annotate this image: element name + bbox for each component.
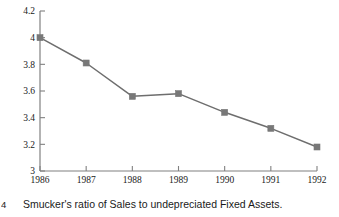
x-tick-label: 1990 <box>215 175 234 185</box>
figure-number-label: 4 <box>1 199 9 210</box>
x-tick-label: 1992 <box>308 175 327 185</box>
y-tick-label: 3.8 <box>23 60 35 70</box>
data-point-marker <box>83 60 89 66</box>
data-point-marker <box>268 125 274 131</box>
data-point-marker <box>314 144 320 150</box>
y-axis-tick-labels: 33.23.43.63.844.2 <box>23 6 35 176</box>
y-tick-label: 3.6 <box>23 86 35 96</box>
x-axis-ticks <box>40 166 317 171</box>
figure-caption-text: Smucker's ratio of Sales to undepreciate… <box>23 198 282 210</box>
figure-caption-row: 4 Smucker's ratio of Sales to undeprecia… <box>0 193 339 215</box>
data-point-marker <box>129 93 135 99</box>
data-point-marker <box>37 35 43 41</box>
data-point-marker <box>222 109 228 115</box>
x-tick-label: 1989 <box>169 175 188 185</box>
data-point-marker <box>176 91 182 97</box>
y-tick-label: 4.2 <box>23 6 35 16</box>
figure-container: 33.23.43.63.844.2 1986198719881989199019… <box>0 0 339 217</box>
y-tick-label: 3.4 <box>23 113 35 123</box>
x-tick-label: 1991 <box>261 175 280 185</box>
x-tick-label: 1986 <box>31 175 50 185</box>
x-tick-label: 1988 <box>123 175 142 185</box>
line-chart: 33.23.43.63.844.2 1986198719881989199019… <box>0 0 339 190</box>
y-tick-label: 3.2 <box>23 140 35 150</box>
y-tick-label: 4 <box>30 33 35 43</box>
x-axis-tick-labels: 1986198719881989199019911992 <box>31 175 327 185</box>
x-tick-label: 1987 <box>77 175 96 185</box>
data-series-markers <box>37 35 320 150</box>
chart-plot-area: 33.23.43.63.844.2 1986198719881989199019… <box>0 0 339 190</box>
